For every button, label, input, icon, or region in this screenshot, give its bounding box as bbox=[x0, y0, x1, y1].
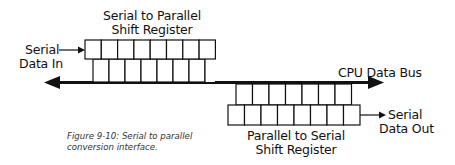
sipo-shift-register bbox=[85, 40, 215, 82]
sipo-label-line1: Serial to Parallel bbox=[92, 9, 212, 23]
serial-in-label-line2: Data In bbox=[19, 57, 63, 71]
figure-caption-line2: conversion interface. bbox=[67, 142, 192, 153]
figure-caption-line1: Figure 9-10: Serial to parallel bbox=[67, 131, 192, 142]
serial-out-label-line2: Data Out bbox=[379, 122, 434, 136]
serial-in-label-line1: Serial bbox=[19, 43, 63, 57]
serial-out-label: Serial Data Out bbox=[379, 108, 434, 136]
serial-out-label-line1: Serial bbox=[379, 108, 434, 122]
piso-label: Parallel to Serial Shift Register bbox=[236, 129, 356, 157]
piso-label-line1: Parallel to Serial bbox=[236, 129, 356, 143]
piso-cells bbox=[228, 105, 360, 125]
piso-parallel-lines bbox=[236, 84, 352, 105]
sipo-cells bbox=[85, 40, 215, 59]
sipo-label: Serial to Parallel Shift Register bbox=[92, 9, 212, 37]
cpu-data-bus-label: CPU Data Bus bbox=[338, 66, 422, 80]
sipo-parallel-lines bbox=[93, 59, 215, 82]
serial-in-label: Serial Data In bbox=[19, 43, 63, 71]
sipo-label-line2: Shift Register bbox=[92, 23, 212, 37]
piso-label-line2: Shift Register bbox=[236, 143, 356, 157]
figure-caption: Figure 9-10: Serial to parallel conversi… bbox=[67, 131, 192, 153]
bus-left-arrowhead bbox=[44, 76, 60, 89]
piso-shift-register bbox=[228, 84, 360, 125]
